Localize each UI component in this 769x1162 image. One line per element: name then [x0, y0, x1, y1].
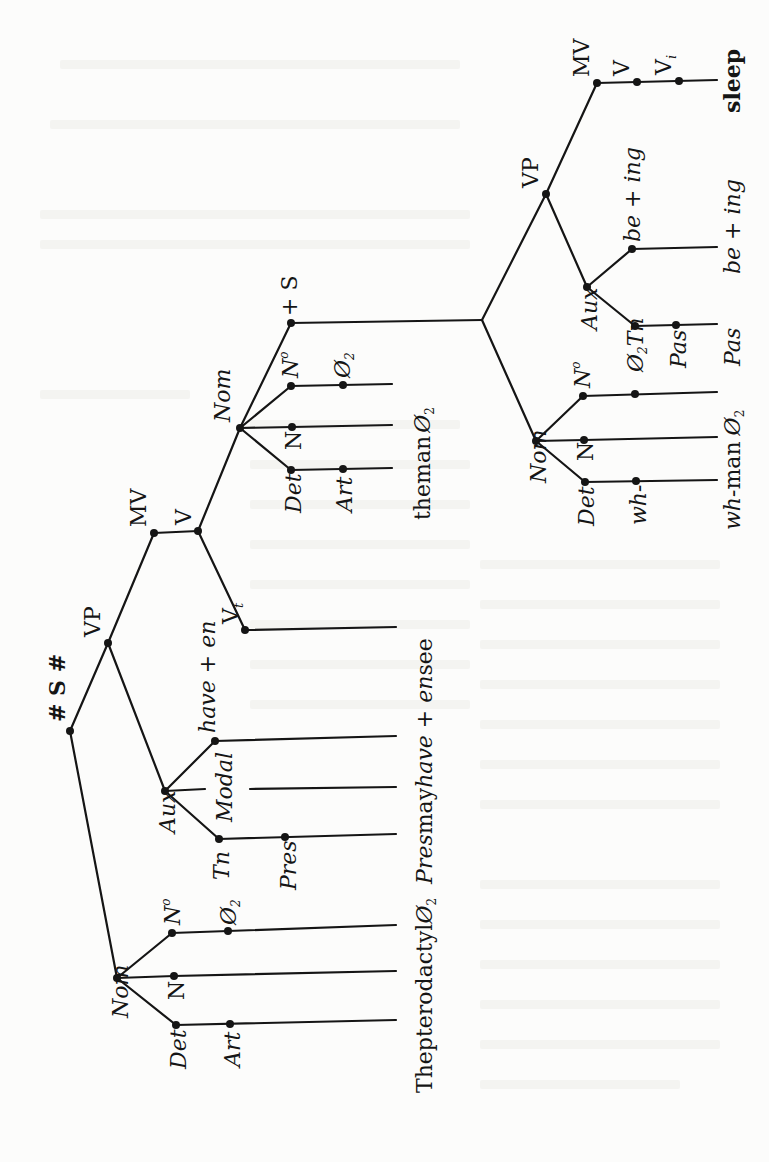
label-pas-relative: Pas [666, 330, 691, 369]
label-n2-main: No [159, 899, 185, 926]
label-n-relative: N [573, 442, 598, 461]
label-wh-relative: wh- [626, 485, 651, 525]
terminal-string-relative-nom: wh-manØ2 [720, 410, 747, 530]
terminal-pas: Pas [720, 328, 745, 367]
label-nom-main: Nom [108, 965, 133, 1019]
label-vp-relative: VP [518, 157, 543, 189]
label-pres-main: Pres [276, 840, 301, 891]
label-modal-main: Modal [212, 752, 237, 823]
label-null-object: Ø2 [330, 352, 357, 379]
label-n2-object: No [277, 352, 303, 379]
label-aux-relative: Aux [577, 287, 602, 332]
label-null-main: Ø2 [216, 899, 243, 926]
label-vp-main: VP [80, 606, 105, 638]
terminal-sleep: sleep [719, 49, 745, 113]
label-nom-object: Nom [210, 369, 235, 423]
label-root: # S # [44, 654, 70, 722]
label-tn-main: Tn [209, 851, 234, 880]
terminal-string-main: ThepterodactylØ2Presmayhave + ensee [412, 638, 439, 1093]
label-null-tn-relative: Ø2Tn [623, 317, 650, 373]
label-det-main: Det [166, 1029, 191, 1070]
label-det-relative: Det [574, 486, 599, 527]
label-det-object: Det [281, 473, 306, 514]
label-art-object: Art [332, 477, 357, 514]
label-n-main: N [164, 981, 189, 1000]
terminal-string-object: themanØ2 [410, 407, 437, 520]
label-vt-main: Vt [218, 602, 246, 625]
phrase-structure-tree: # S # VP MV V Vt Nom Det N No Art Ø2 Aux… [0, 0, 769, 1162]
tree-nodes [66, 77, 683, 1029]
label-mv-main: MV [126, 487, 151, 527]
label-aux-main: Aux [155, 790, 180, 835]
terminal-be-ing: be + ing [720, 179, 745, 274]
label-have-en: have + en [195, 621, 220, 733]
label-vi-relative: Vi [651, 55, 679, 76]
label-v-main: V [171, 508, 196, 526]
label-be-ing-relative: be + ing [620, 147, 645, 242]
label-v-relative: V [609, 59, 634, 77]
label-n2-relative: No [569, 362, 595, 389]
label-plus-s: + S [277, 276, 302, 317]
label-n-object: N [281, 431, 306, 450]
label-art-main: Art [220, 1032, 245, 1069]
label-nom-relative: Nom [526, 430, 551, 484]
label-mv-relative: MV [569, 37, 594, 77]
book-page: # S # VP MV V Vt Nom Det N No Art Ø2 Aux… [0, 0, 769, 1162]
